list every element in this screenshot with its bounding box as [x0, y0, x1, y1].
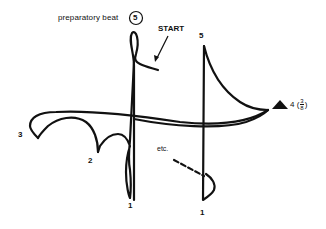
beat-pattern-diagram: preparatory beat 5 START 5 3 2 1 1 etc. … [0, 0, 326, 229]
beat3-label: 3 [18, 131, 22, 139]
start-arrow-icon [154, 36, 168, 62]
preparatory-beat-label: preparatory beat [58, 14, 118, 22]
beat4-meter-label: 4 (38) [290, 98, 307, 111]
paren-close: ) [305, 100, 308, 109]
beat2-label: 2 [88, 157, 92, 165]
preparatory-beat-number: 5 [133, 14, 137, 22]
etc-dashed-line [174, 160, 204, 176]
beat4-triangle-icon [272, 100, 288, 109]
start-label: START [158, 25, 184, 33]
meter-numerator: 3 [300, 98, 303, 105]
paren-open: ( [297, 100, 300, 109]
beat5-label: 5 [199, 32, 203, 40]
beat4-number: 4 [290, 100, 294, 109]
meter-fraction: 38 [300, 98, 303, 111]
beat-pattern-paths [0, 0, 326, 229]
beat5-curve [204, 46, 268, 110]
meter-denominator: 8 [300, 105, 303, 111]
first-downbeat-path [98, 62, 134, 198]
beat1-second-label: 1 [200, 209, 204, 217]
beat1-first-label: 1 [128, 202, 132, 210]
etc-label: etc. [157, 145, 168, 152]
beat2-to-beat3-arc [38, 118, 98, 152]
